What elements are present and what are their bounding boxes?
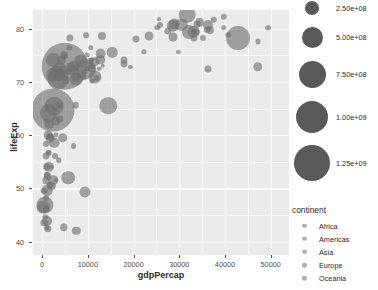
- x-tick-mark: [179, 255, 180, 258]
- y-tick-label: 50: [16, 184, 24, 193]
- y-tick-label: 80: [16, 24, 24, 33]
- x-tick-mark: [271, 255, 272, 258]
- legend-continent-key: [302, 236, 307, 241]
- x-tick-label: 50000: [261, 260, 281, 269]
- x-tick-mark: [88, 255, 89, 258]
- legend-size-key: [299, 61, 326, 88]
- chart-root: 4050607080 01000020000300004000050000 gd…: [0, 0, 378, 290]
- x-tick-mark: [134, 255, 135, 258]
- y-tick-mark: [29, 29, 32, 30]
- legend-continent-label: Asia: [319, 247, 333, 256]
- x-tick-label: 20000: [123, 260, 143, 269]
- y-tick-mark: [29, 188, 32, 189]
- legend-size-key: [302, 27, 323, 48]
- legend-continent-item[interactable]: Americas: [302, 232, 378, 245]
- legend-continent-item[interactable]: Oceania: [302, 272, 378, 285]
- x-tick-mark: [42, 255, 43, 258]
- x-axis: 01000020000300004000050000: [33, 0, 289, 290]
- x-axis-title: gdpPercap: [33, 270, 289, 280]
- legend-continent-item[interactable]: Europe: [302, 259, 378, 272]
- legend-continent-key: [302, 223, 307, 228]
- legend-continent: continent AfricaAmericasAsiaEuropeOceani…: [292, 205, 378, 290]
- legend-continent-label: Europe: [319, 261, 343, 270]
- legend-continent-item[interactable]: Africa: [302, 219, 378, 232]
- y-tick-label: 70: [16, 77, 24, 86]
- legend-continent-key: [302, 250, 307, 255]
- legend-size-key: [305, 1, 319, 15]
- y-tick-mark: [29, 242, 32, 243]
- x-tick-mark: [225, 255, 226, 258]
- legend-size-label: 7.50e+08: [336, 70, 367, 79]
- x-tick-label: 30000: [169, 260, 189, 269]
- legend-size-label: 2.50e+08: [336, 4, 367, 13]
- legend-continent-label: Americas: [319, 234, 349, 243]
- legend-continent-key: [302, 276, 307, 281]
- legend-size-label: 1.00e+09: [336, 113, 367, 122]
- legend-continent-key: [302, 263, 307, 268]
- y-axis-title: lifeExp: [9, 107, 19, 167]
- x-tick-label: 0: [40, 260, 44, 269]
- legend-size-label: 1.25e+09: [336, 159, 367, 168]
- legend-continent-title: continent: [292, 205, 326, 215]
- y-tick-mark: [29, 82, 32, 83]
- y-tick-label: 40: [16, 237, 24, 246]
- legend-continent-label: Oceania: [319, 274, 346, 283]
- legend-size-key: [294, 145, 330, 181]
- y-tick-mark: [29, 135, 32, 136]
- legend-size-key: [296, 101, 328, 133]
- legend-continent-item[interactable]: Asia: [302, 245, 378, 258]
- x-tick-label: 40000: [215, 260, 235, 269]
- legend-size: 2.50e+085.00e+087.50e+081.00e+091.25e+09: [292, 0, 378, 195]
- legend-continent-label: Africa: [319, 221, 338, 230]
- legend-size-label: 5.00e+08: [336, 33, 367, 42]
- x-tick-label: 10000: [78, 260, 98, 269]
